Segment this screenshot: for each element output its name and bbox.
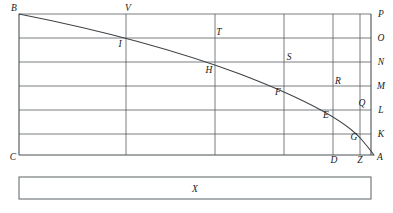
- label-R: R: [334, 76, 341, 86]
- label-Z: Z: [357, 155, 363, 165]
- label-K: K: [377, 129, 385, 139]
- label-M: M: [376, 81, 386, 91]
- label-T: T: [216, 27, 222, 37]
- label-O: O: [378, 33, 385, 43]
- label-P: P: [377, 9, 384, 19]
- label-N: N: [377, 57, 385, 67]
- label-V: V: [125, 3, 132, 13]
- label-G: G: [351, 132, 358, 142]
- label-S: S: [287, 52, 292, 62]
- label-I: I: [117, 39, 122, 49]
- label-L: L: [377, 105, 383, 115]
- label-F: F: [274, 87, 281, 97]
- label-B: B: [11, 3, 17, 13]
- geometry-diagram: B V P T I O S N H R M F Q L E G K C D Z …: [0, 0, 393, 213]
- label-D: D: [330, 155, 338, 165]
- label-X: X: [191, 184, 199, 194]
- label-Q: Q: [359, 98, 366, 108]
- label-C: C: [10, 152, 17, 162]
- label-H: H: [205, 65, 214, 75]
- label-E: E: [322, 110, 329, 120]
- horizontal-grid-lines: [19, 14, 374, 155]
- diagram-labels: B V P T I O S N H R M F Q L E G K C D Z …: [10, 3, 386, 194]
- figure-root: B V P T I O S N H R M F Q L E G K C D Z …: [0, 0, 393, 213]
- label-A: A: [376, 152, 383, 162]
